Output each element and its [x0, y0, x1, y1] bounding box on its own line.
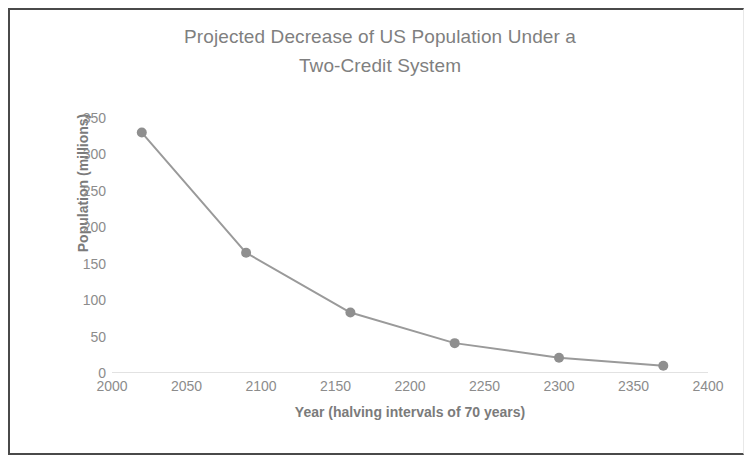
y-tick-label: 350	[66, 110, 106, 126]
x-axis-tick-labels: 200020502100215022002250230023502400	[112, 378, 708, 398]
data-point-marker	[450, 338, 460, 348]
x-tick-label: 2150	[306, 378, 366, 394]
data-point-marker	[345, 308, 355, 318]
x-tick-label: 2400	[678, 378, 738, 394]
chart-title: Projected Decrease of US Population Unde…	[60, 22, 700, 80]
x-tick-label: 2000	[82, 378, 142, 394]
y-tick-label: 50	[66, 329, 106, 345]
data-point-marker	[241, 248, 251, 258]
y-tick-label: 250	[66, 183, 106, 199]
data-series-line	[112, 118, 708, 373]
x-tick-label: 2200	[380, 378, 440, 394]
plot-area	[112, 118, 708, 373]
x-tick-label: 2050	[157, 378, 217, 394]
data-point-marker	[554, 353, 564, 363]
y-tick-label: 150	[66, 256, 106, 272]
y-axis-tick-labels: 050100150200250300350	[62, 118, 106, 373]
x-axis-title: Year (halving intervals of 70 years)	[112, 404, 708, 420]
x-tick-label: 2100	[231, 378, 291, 394]
chart-figure: Projected Decrease of US Population Unde…	[0, 0, 752, 469]
data-point-marker	[658, 361, 668, 371]
data-point-marker	[137, 128, 147, 138]
x-tick-label: 2350	[604, 378, 664, 394]
y-tick-label: 200	[66, 219, 106, 235]
y-tick-label: 300	[66, 146, 106, 162]
chart-title-line-1: Projected Decrease of US Population Unde…	[60, 22, 700, 51]
x-tick-label: 2250	[455, 378, 515, 394]
x-tick-label: 2300	[529, 378, 589, 394]
chart-title-line-2: Two-Credit System	[60, 51, 700, 80]
y-tick-label: 100	[66, 292, 106, 308]
series-line	[142, 133, 664, 366]
